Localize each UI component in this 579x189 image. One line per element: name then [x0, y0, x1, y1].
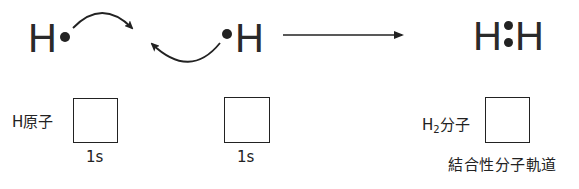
h2-symbol: H: [422, 116, 433, 134]
curved-arrow-top-icon: [73, 13, 132, 28]
orbital-box-atom1: [73, 98, 118, 143]
bonding-orbital-label: 結合性分子軌道: [448, 156, 557, 174]
h2-molecule-label: H2分子: [422, 116, 470, 139]
curved-arrow-bottom-icon: [152, 43, 220, 62]
molecule-word: 分子: [440, 116, 470, 134]
orbital-label-1s: 1s: [86, 148, 103, 166]
orbital-label-1s: 1s: [237, 148, 254, 166]
orbital-box-atom2: [224, 97, 270, 143]
h-atom-label: H原子: [12, 113, 53, 131]
orbital-box-molecule: [485, 97, 530, 143]
